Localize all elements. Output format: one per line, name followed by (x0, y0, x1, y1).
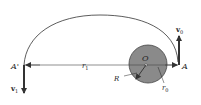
label-R: R (113, 75, 120, 83)
planet (129, 45, 167, 83)
label-O: O (142, 54, 149, 63)
label-r0: r0 (162, 84, 169, 93)
orbit-diagram: A' A O R r1 r0 v0 v1 (0, 0, 201, 105)
label-v0: v0 (175, 25, 183, 35)
label-A: A (181, 62, 188, 71)
label-r1: r1 (82, 62, 89, 71)
label-A-prime: A' (10, 62, 19, 71)
label-v1: v1 (10, 84, 18, 94)
